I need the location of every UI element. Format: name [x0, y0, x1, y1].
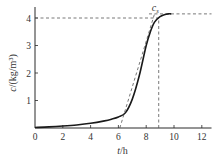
- y-tick-label: 1: [26, 96, 31, 106]
- chart: 0246810121234cst/hc/(kg/m³): [0, 0, 221, 161]
- x-tick-label: 0: [33, 132, 38, 142]
- x-axis-label: t/h: [117, 145, 128, 156]
- x-tick-label: 4: [88, 132, 93, 142]
- y-tick-label: 3: [26, 41, 31, 51]
- x-tick-label: 8: [144, 132, 149, 142]
- tangent-line: [120, 14, 155, 128]
- annotation-cs: cs: [152, 2, 159, 14]
- x-tick-label: 2: [60, 132, 65, 142]
- y-tick-label: 2: [26, 69, 31, 79]
- x-tick-label: 12: [197, 132, 207, 142]
- x-tick-label: 6: [116, 132, 121, 142]
- concentration-curve: [35, 14, 171, 128]
- y-tick-label: 4: [26, 14, 31, 24]
- y-axis-label: c/(kg/m³): [7, 54, 19, 91]
- x-tick-label: 10: [169, 132, 179, 142]
